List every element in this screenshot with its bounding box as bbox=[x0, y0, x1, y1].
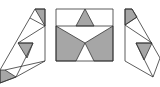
right-middle-shaded-triangle bbox=[136, 43, 152, 60]
left-bottom-shaded-triangle bbox=[0, 70, 16, 83]
right-top-shaded-triangle bbox=[125, 9, 137, 25]
right-net bbox=[125, 9, 160, 77]
center-left-shaded-region bbox=[56, 26, 85, 61]
left-middle-shaded-triangle bbox=[18, 43, 33, 58]
center-top-shaded-triangle bbox=[76, 9, 94, 26]
center-right-shaded-region bbox=[85, 26, 113, 61]
center-rectangle bbox=[56, 9, 113, 61]
diagram bbox=[0, 0, 160, 87]
left-net bbox=[0, 9, 45, 83]
